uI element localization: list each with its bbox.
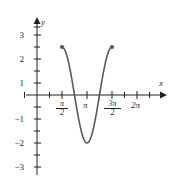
- x-tick-3pi-over-2-numerator: 3π: [104, 100, 121, 108]
- math-graph-figure: 3 2 1 −1 −2 −3 π 2 π 3π 2 2π x y: [0, 0, 174, 178]
- x-axis-arrowhead: [160, 92, 167, 99]
- x-tick-pi-over-2-numerator: π: [56, 100, 68, 108]
- y-tick-label-neg3: −3: [6, 163, 24, 172]
- x-tick-label-pi: π: [83, 101, 88, 110]
- y-tick-label-2: 2: [10, 55, 24, 64]
- x-tick-label-3pi-over-2: 3π 2: [104, 100, 121, 118]
- left-endpoint-dot: [60, 45, 64, 49]
- x-tick-pi-over-2-denominator: 2: [56, 108, 68, 117]
- x-tick-3pi-over-2-denominator: 2: [104, 108, 121, 117]
- y-axis-arrowhead: [34, 17, 41, 24]
- x-axis-name: x: [159, 79, 163, 88]
- y-tick-label-1: 1: [10, 79, 24, 88]
- y-axis-name: y: [41, 18, 45, 27]
- x-tick-label-pi-over-2: π 2: [56, 100, 68, 118]
- y-tick-label-neg1: −1: [6, 115, 24, 124]
- y-tick-label-3: 3: [10, 31, 24, 40]
- right-endpoint-dot: [110, 45, 114, 49]
- x-tick-label-2pi: 2π: [131, 101, 140, 110]
- graph-canvas: [0, 0, 174, 178]
- y-tick-label-neg2: −2: [6, 139, 24, 148]
